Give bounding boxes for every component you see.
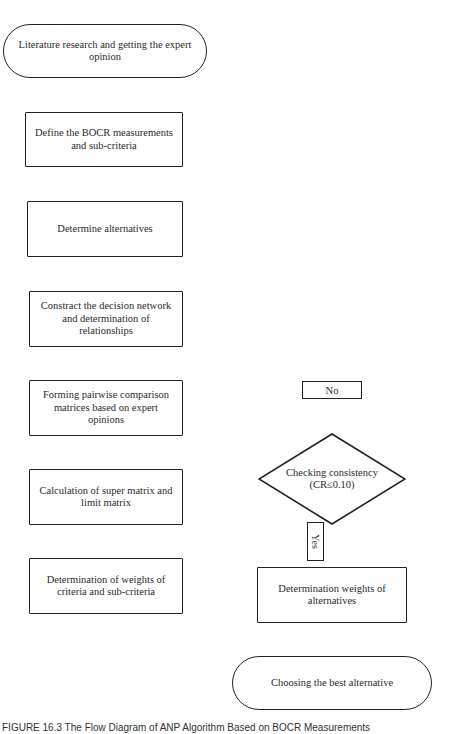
step-determine-alternatives: Determine alternatives bbox=[27, 201, 183, 257]
step-label: Define the BOCR measurements and sub-cri… bbox=[32, 127, 176, 152]
step-label: Determine alternatives bbox=[57, 223, 152, 236]
no-label-box: No bbox=[302, 381, 362, 399]
decision-line-2: (CR≤0.10) bbox=[286, 479, 378, 492]
step-label: Determination of weights of criteria and… bbox=[36, 574, 176, 599]
end-terminal: Choosing the best alternative bbox=[232, 656, 432, 710]
step-label: Constract the decision network and deter… bbox=[36, 300, 176, 338]
step-criteria-weights: Determination of weights of criteria and… bbox=[29, 558, 183, 614]
step-pairwise-comparison: Forming pairwise comparison matrices bas… bbox=[29, 380, 183, 436]
decision-text: Checking consistency (CR≤0.10) bbox=[258, 433, 406, 525]
step-define-bocr: Define the BOCR measurements and sub-cri… bbox=[25, 112, 183, 167]
start-label: Literature research and getting the expe… bbox=[18, 39, 192, 64]
end-label: Choosing the best alternative bbox=[271, 677, 393, 690]
step-construct-network: Constract the decision network and deter… bbox=[29, 291, 183, 347]
start-terminal: Literature research and getting the expe… bbox=[3, 24, 207, 78]
yes-label-box: Yes bbox=[307, 522, 324, 561]
step-label: Determination weights of alternatives bbox=[264, 583, 400, 608]
step-label: Forming pairwise comparison matrices bas… bbox=[36, 389, 176, 427]
decision-line-1: Checking consistency bbox=[286, 467, 378, 480]
figure-caption: FIGURE 16.3 The Flow Diagram of ANP Algo… bbox=[2, 722, 370, 733]
no-label: No bbox=[326, 385, 339, 396]
step-super-matrix: Calculation of super matrix and limit ma… bbox=[29, 469, 183, 525]
step-label: Calculation of super matrix and limit ma… bbox=[36, 485, 176, 510]
step-alternative-weights: Determination weights of alternatives bbox=[257, 567, 407, 623]
yes-label: Yes bbox=[310, 534, 321, 549]
consistency-check-decision: Checking consistency (CR≤0.10) bbox=[258, 433, 406, 525]
